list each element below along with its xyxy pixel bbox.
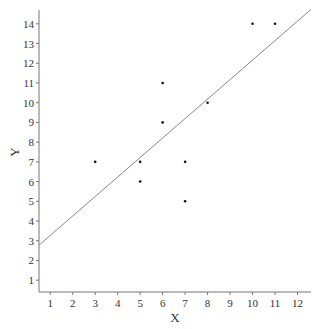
fit-line-group bbox=[39, 9, 311, 245]
x-ticks: 123456789101112 bbox=[47, 292, 303, 309]
data-point bbox=[139, 180, 142, 183]
x-tick-label: 7 bbox=[182, 297, 188, 309]
x-tick-label: 6 bbox=[160, 297, 166, 309]
y-tick-label: 14 bbox=[23, 18, 35, 30]
x-tick-label: 3 bbox=[92, 297, 98, 309]
data-point bbox=[206, 101, 209, 104]
y-tick-label: 9 bbox=[29, 116, 35, 128]
x-tick-label: 9 bbox=[227, 297, 233, 309]
y-tick-label: 6 bbox=[29, 176, 35, 188]
data-point bbox=[184, 200, 187, 203]
y-tick-label: 12 bbox=[23, 57, 34, 69]
regression-line bbox=[39, 9, 311, 245]
data-point bbox=[161, 82, 164, 85]
points-group bbox=[94, 23, 276, 203]
data-point bbox=[139, 161, 142, 164]
x-tick-label: 11 bbox=[270, 297, 281, 309]
y-tick-label: 2 bbox=[29, 254, 35, 266]
data-point bbox=[274, 23, 277, 26]
x-tick-label: 4 bbox=[115, 297, 121, 309]
y-tick-label: 5 bbox=[29, 195, 35, 207]
y-tick-label: 8 bbox=[29, 136, 35, 148]
x-tick-label: 5 bbox=[137, 297, 143, 309]
y-ticks: 1234567891011121314 bbox=[23, 18, 39, 286]
x-tick-label: 2 bbox=[70, 297, 76, 309]
data-point bbox=[161, 121, 164, 124]
y-tick-label: 7 bbox=[29, 156, 35, 168]
y-tick-label: 3 bbox=[29, 235, 35, 247]
y-tick-label: 10 bbox=[23, 97, 35, 109]
x-axis-label: X bbox=[170, 310, 180, 325]
scatter-chart: 123456789101112 1234567891011121314 X Y bbox=[0, 0, 319, 329]
y-tick-label: 1 bbox=[29, 274, 35, 286]
x-tick-label: 8 bbox=[205, 297, 211, 309]
y-tick-label: 11 bbox=[23, 77, 34, 89]
axes bbox=[39, 10, 311, 292]
x-tick-label: 1 bbox=[47, 297, 53, 309]
y-tick-label: 13 bbox=[23, 38, 35, 50]
data-point bbox=[251, 23, 254, 26]
data-point bbox=[184, 161, 187, 164]
x-tick-label: 12 bbox=[292, 297, 303, 309]
y-axis-label: Y bbox=[7, 147, 22, 157]
data-point bbox=[94, 161, 97, 164]
x-tick-label: 10 bbox=[247, 297, 259, 309]
y-tick-label: 4 bbox=[29, 215, 35, 227]
